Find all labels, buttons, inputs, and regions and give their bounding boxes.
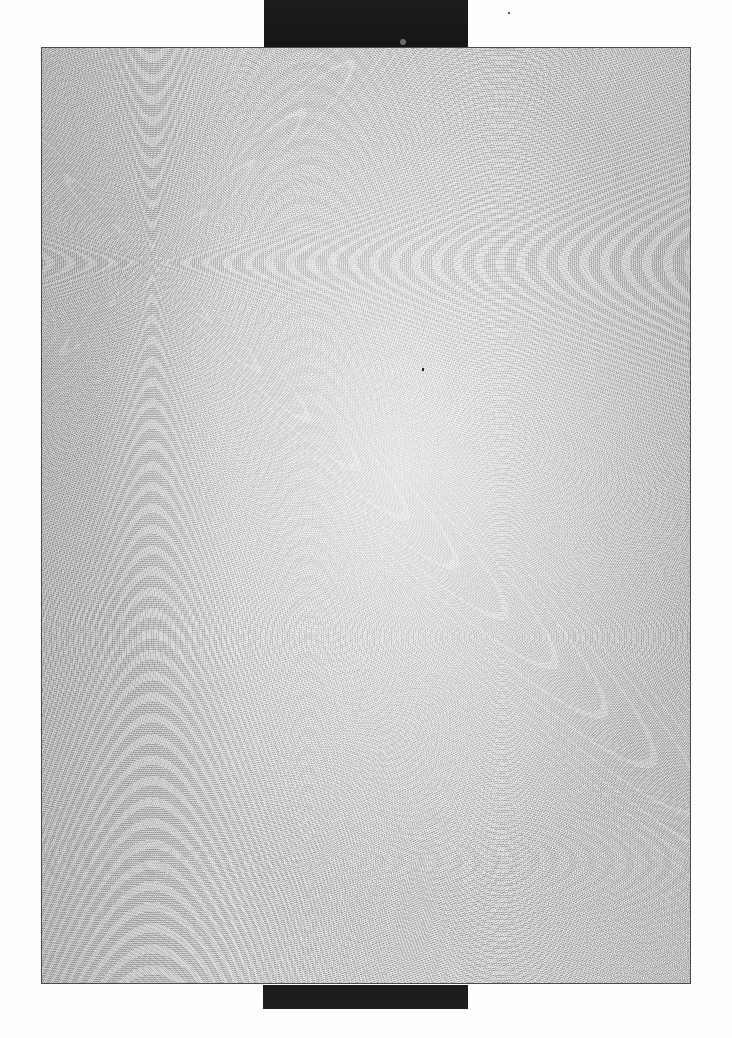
scan-canvas	[0, 0, 732, 1038]
blank-sheet	[41, 47, 691, 984]
clamp-mark-icon	[400, 39, 406, 45]
bottom-scanner-clamp	[263, 985, 468, 1009]
dust-speck	[422, 368, 424, 371]
dust-speck-outside	[508, 12, 510, 14]
top-scanner-clamp	[264, 0, 468, 47]
